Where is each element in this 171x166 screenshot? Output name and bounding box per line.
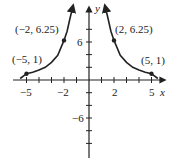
x-tick-label-neg5: −5 <box>20 86 32 98</box>
x-tick-label-2: 2 <box>112 86 118 98</box>
x-tick-label-neg2: −2 <box>57 86 69 98</box>
y-tick-label-6: 6 <box>77 36 83 48</box>
point-label-neg5-1: (−5, 1) <box>12 53 42 66</box>
point-label-neg2-6.25: (−2, 6.25) <box>15 23 59 36</box>
point-5-1 <box>149 72 153 76</box>
graph-svg: (−5, 1) (−2, 6.25) (2, 6.25) (5, 1) −5 −… <box>0 0 171 166</box>
x-tick-label-5: 5 <box>149 86 155 98</box>
point-neg2-6.25 <box>62 38 66 42</box>
function-graph: (−5, 1) (−2, 6.25) (2, 6.25) (5, 1) −5 −… <box>0 0 171 166</box>
x-axis-label: x <box>159 86 165 98</box>
y-axis-label: y <box>94 2 100 14</box>
point-neg5-1 <box>24 72 28 76</box>
y-tick-label-neg6: −6 <box>72 112 84 124</box>
point-label-2-6.25: (2, 6.25) <box>115 23 153 36</box>
point-2-6.25 <box>112 38 116 42</box>
point-label-5-1: (5, 1) <box>141 54 165 67</box>
right-branch-curve <box>106 8 158 79</box>
left-branch-curve <box>20 8 72 79</box>
